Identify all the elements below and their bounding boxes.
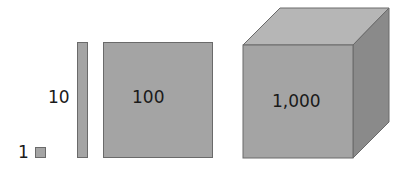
cube-label: 1,000 <box>272 93 321 110</box>
cube-shape <box>0 0 404 171</box>
